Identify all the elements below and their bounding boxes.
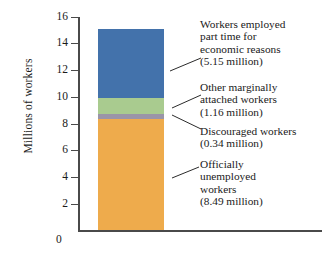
x-axis-origin-label: 0 (56, 234, 62, 246)
y-tick-mark-14 (71, 43, 79, 44)
y-tick-label-6: 6 (38, 144, 68, 156)
y-tick-mark-8 (71, 124, 79, 125)
leader-line-marginally-attached (172, 95, 202, 109)
annotation-marginally-attached: Other marginally attached workers (1.16 … (200, 81, 277, 118)
x-axis-line (78, 230, 322, 232)
bar-segment-part-time-workers (98, 29, 164, 98)
leader-line-discouraged-workers (172, 115, 202, 130)
y-tick-label-2: 2 (38, 198, 68, 210)
annotation-part-time-workers: Workers employed part time for economic … (200, 18, 285, 67)
leader-line-officially-unemployed (172, 167, 200, 179)
y-tick-label-8: 8 (38, 118, 68, 130)
y-tick-mark-16 (71, 17, 79, 18)
y-tick-mark-10 (71, 97, 79, 98)
y-axis-title: Millions of workers (22, 41, 34, 171)
y-tick-mark-4 (71, 177, 79, 178)
annotation-discouraged-workers: Discouraged workers (0.34 million) (200, 125, 296, 150)
leader-line-part-time-workers (170, 58, 202, 72)
y-tick-mark-2 (71, 204, 79, 205)
bar-segment-marginally-attached (98, 98, 164, 114)
y-tick-mark-12 (71, 70, 79, 71)
bar-segment-officially-unemployed (98, 119, 164, 230)
stacked-bar-chart: Millions of workers 16 14 12 10 8 6 4 2 … (0, 0, 322, 254)
y-tick-label-4: 4 (38, 171, 68, 183)
y-tick-label-16: 16 (38, 11, 68, 23)
y-tick-label-12: 12 (38, 64, 68, 76)
y-tick-label-14: 14 (38, 37, 68, 49)
annotation-officially-unemployed: Officially unemployed workers (8.49 mill… (200, 158, 263, 207)
y-tick-label-10: 10 (38, 91, 68, 103)
y-tick-mark-6 (71, 150, 79, 151)
